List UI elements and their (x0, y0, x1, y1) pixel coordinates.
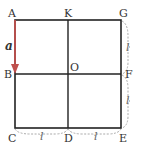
label-point-B: B (4, 68, 12, 81)
label-point-A: A (7, 7, 17, 20)
vector-a-arrowhead-icon (11, 64, 19, 74)
label-point-F: F (125, 68, 133, 81)
label-point-O: O (70, 61, 79, 74)
label-length-DE: l (94, 130, 98, 143)
label-point-D: D (64, 132, 73, 145)
label-length-CD: l (40, 130, 44, 143)
label-point-G: G (119, 7, 128, 20)
label-point-C: C (8, 132, 16, 145)
label-vector-a: a (5, 39, 13, 53)
square-grid-diagram: A K G B O F C D E a l l l l (0, 0, 143, 149)
label-point-K: K (64, 7, 73, 20)
label-point-E: E (119, 132, 127, 145)
label-length-FE: l (126, 94, 130, 107)
label-length-GF: l (126, 41, 130, 54)
